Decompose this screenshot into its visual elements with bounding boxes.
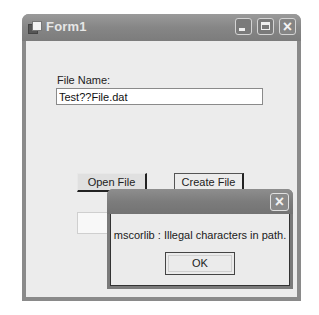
file-name-input[interactable] xyxy=(56,88,263,105)
minimize-button[interactable] xyxy=(235,18,252,35)
close-icon: × xyxy=(280,19,295,34)
error-message-box: × mscorlib : Illegal characters in path.… xyxy=(107,189,293,289)
maximize-button[interactable] xyxy=(257,18,274,35)
message-box-title-bar[interactable]: × xyxy=(107,189,293,214)
title-bar[interactable]: Form1 × xyxy=(22,14,301,41)
error-message-text: mscorlib : Illegal characters in path. xyxy=(111,229,289,241)
ok-button[interactable]: OK xyxy=(165,252,235,275)
app-window-icon[interactable] xyxy=(28,21,41,33)
file-name-label: File Name: xyxy=(57,74,110,86)
message-box-close-button[interactable]: × xyxy=(270,193,289,211)
message-box-body: mscorlib : Illegal characters in path. O… xyxy=(110,214,290,286)
close-icon: × xyxy=(271,194,288,210)
close-button[interactable]: × xyxy=(279,18,296,35)
window-title: Form1 xyxy=(46,19,87,34)
